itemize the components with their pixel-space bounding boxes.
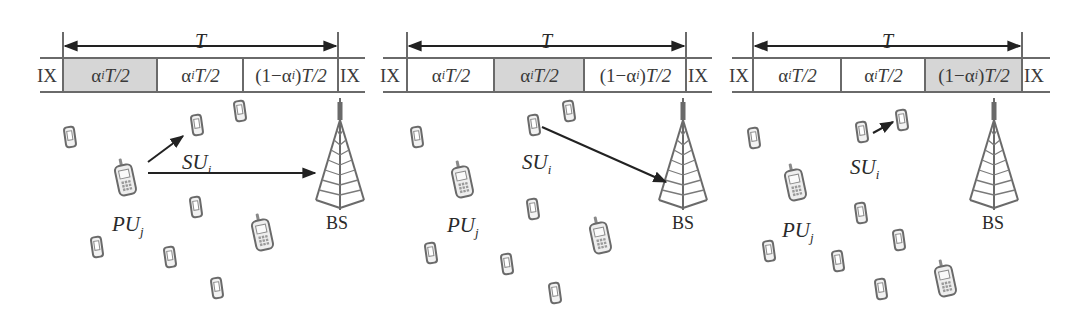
cell-phone-icon [250,212,274,252]
small-phone-icon [211,277,224,298]
small-phone-icon [191,114,204,135]
small-phone-icon [855,202,868,223]
base-station-tower-icon [970,98,1018,210]
small-phone-icon [528,114,541,135]
diagram-graphics [0,0,1080,330]
cell-phone-icon [450,159,474,199]
transmission-arrow [873,122,893,133]
small-phone-icon [234,100,247,121]
panel-1-graphics [40,32,365,299]
small-phone-icon [91,236,104,257]
base-station-tower-icon [659,98,707,210]
panel-3-graphics [732,32,1050,300]
cell-phone-icon [783,162,807,202]
small-phone-icon [875,278,888,299]
cell-phone-icon [113,157,137,197]
cell-phone-icon [933,258,957,298]
small-phone-icon [893,229,906,250]
base-station-tower-icon [316,98,364,210]
panel-2-graphics [383,32,712,304]
small-phone-icon [748,127,761,148]
small-phone-icon [763,240,776,261]
small-phone-icon [856,121,869,142]
small-phone-icon [425,242,438,263]
transmission-arrow [148,136,183,162]
small-phone-icon [896,109,909,130]
small-phone-icon [411,126,424,147]
small-phone-icon [164,246,177,267]
small-phone-icon [549,282,562,303]
small-phone-icon [64,126,77,147]
small-phone-icon [563,100,576,121]
small-phone-icon [190,196,203,217]
figure-canvas: αiT/2αiT/2(1−αi)T/2IXIXTPUjSUiBSαiT/2αiT… [0,0,1080,330]
small-phone-icon [501,253,514,274]
cell-phone-icon [588,215,612,255]
small-phone-icon [527,198,540,219]
small-phone-icon [832,250,845,271]
transmission-arrow [542,127,666,182]
